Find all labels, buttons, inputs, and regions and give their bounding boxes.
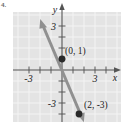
y-axis-name: y xyxy=(52,4,58,15)
x-axis-label-neg3: -3 xyxy=(24,73,32,84)
point-label-0-1: (0, 1) xyxy=(65,46,86,57)
x-axis-name: x xyxy=(112,72,118,83)
figure-number-label: 4. xyxy=(1,1,6,9)
figure-container: 4. xyxy=(0,0,125,130)
data-point-0-1 xyxy=(59,56,66,63)
y-axis-label-pos3: 3 xyxy=(50,21,56,32)
data-point-2--3 xyxy=(76,111,83,118)
point-label-2--3: (2, -3) xyxy=(84,100,108,111)
y-axis-label-neg3: -3 xyxy=(48,98,56,109)
coordinate-plane-graphic: -3 3 3 -3 y x (0, 1) (2, -3) xyxy=(0,0,125,130)
x-axis-label-pos3: 3 xyxy=(92,73,98,84)
